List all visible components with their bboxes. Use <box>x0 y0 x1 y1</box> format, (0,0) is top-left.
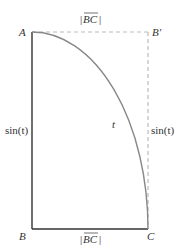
arc-t <box>32 32 148 229</box>
top-bc-letters: BC <box>83 13 98 25</box>
point-label-c: C <box>147 230 155 242</box>
point-label-b: B <box>19 230 26 242</box>
label-bottom-bc: | BC | <box>80 233 101 245</box>
label-right-sin-t: sin(t) <box>151 124 175 137</box>
label-left-sin-t: sin(t) <box>5 124 29 137</box>
svg-text:|: | <box>80 233 82 245</box>
svg-text:|: | <box>99 13 101 25</box>
label-arc-t: t <box>112 118 116 130</box>
point-label-a: A <box>18 26 26 38</box>
svg-text:|: | <box>99 233 101 245</box>
point-label-b-prime: B' <box>152 26 162 38</box>
label-top-bc: | BC | <box>80 13 101 25</box>
svg-text:|: | <box>80 13 82 25</box>
diagram-canvas: A B' B C | BC | | BC | sin(t) sin(t) t <box>0 0 178 251</box>
bottom-bc-letters: BC <box>83 233 98 245</box>
